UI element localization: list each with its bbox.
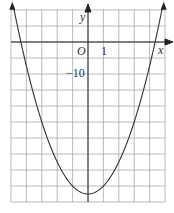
axes xyxy=(11,4,173,202)
y-tick-label: −10 xyxy=(66,67,85,79)
x-axis-label: x xyxy=(158,44,163,56)
origin-label: O xyxy=(77,45,86,57)
y-axis-label: y xyxy=(80,11,85,23)
graph xyxy=(0,0,174,213)
x-tick-label: 1 xyxy=(101,45,107,57)
